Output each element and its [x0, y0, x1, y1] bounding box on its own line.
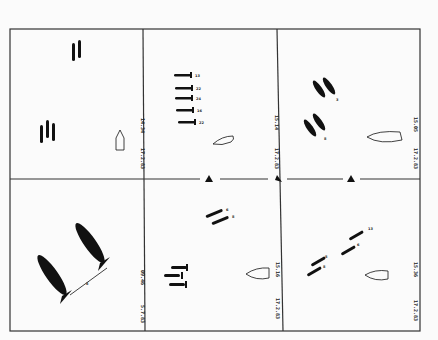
date-stamp: 17.2.83 [413, 300, 419, 321]
panel-bottom-left: 8 09.46 5.7.83 [33, 220, 146, 323]
diagram-canvas: 14.34 17.2.83 13 22 24 16 22 15.14 17.2.… [0, 0, 438, 340]
ship-outline-icon [246, 268, 269, 279]
distance-marker [70, 268, 107, 295]
time-stamp: 15.36 [413, 262, 419, 277]
svg-text:6: 6 [226, 208, 229, 212]
svg-text:8: 8 [323, 265, 326, 269]
time-stamp: 15.14 [274, 115, 280, 130]
svg-text:8: 8 [325, 255, 328, 259]
outer-frame [10, 29, 420, 331]
shape-icon [46, 120, 49, 138]
date-stamp: 17.2.83 [275, 298, 281, 319]
divider-vertical-left [143, 29, 145, 331]
ship-outline-icon [116, 130, 124, 150]
svg-text:3: 3 [336, 98, 339, 102]
svg-text:13: 13 [368, 227, 373, 231]
time-stamp: 09.46 [140, 270, 146, 285]
time-stamp: 14.34 [140, 118, 146, 133]
ship-outline-icon [365, 271, 388, 280]
shape-icon [40, 125, 43, 143]
time-stamp: 15.05 [413, 117, 419, 132]
svg-text:13: 13 [195, 74, 200, 78]
ship-outline-icon [213, 136, 234, 145]
date-stamp: 17.2.83 [413, 148, 419, 169]
date-stamp: 5.7.83 [140, 305, 146, 323]
grid-frame [10, 29, 420, 331]
ship-outline-icon [367, 132, 402, 142]
triangle-marker-icon [205, 175, 213, 182]
svg-text:16: 16 [197, 109, 202, 113]
triangle-marker-icon [275, 175, 282, 182]
shape-icon [78, 40, 81, 58]
triangle-marker-icon [347, 175, 355, 182]
svg-text:8: 8 [324, 137, 327, 141]
date-stamp: 17.2.83 [274, 148, 280, 169]
svg-text:24: 24 [196, 97, 201, 101]
column-formation [174, 72, 196, 125]
date-stamp: 17.2.83 [140, 148, 146, 169]
panel-bottom-middle: 6 8 15.16 17.2.83 [164, 208, 281, 319]
panel-top-left: 14.34 17.2.83 [40, 40, 146, 169]
svg-text:8: 8 [86, 282, 89, 286]
panel-top-right: 3 8 15.05 17.2.83 [302, 76, 419, 169]
panel-bottom-right: 13 6 8 8 15.36 17.2.83 [307, 227, 419, 321]
svg-text:8: 8 [232, 215, 235, 219]
svg-text:22: 22 [196, 87, 201, 91]
shape-icon [72, 43, 75, 61]
shape-icon [52, 123, 55, 141]
time-stamp: 15.16 [275, 262, 281, 277]
svg-text:22: 22 [199, 121, 204, 125]
svg-text:6: 6 [357, 243, 360, 247]
panel-top-middle: 13 22 24 16 22 15.14 17.2.83 [174, 72, 280, 169]
